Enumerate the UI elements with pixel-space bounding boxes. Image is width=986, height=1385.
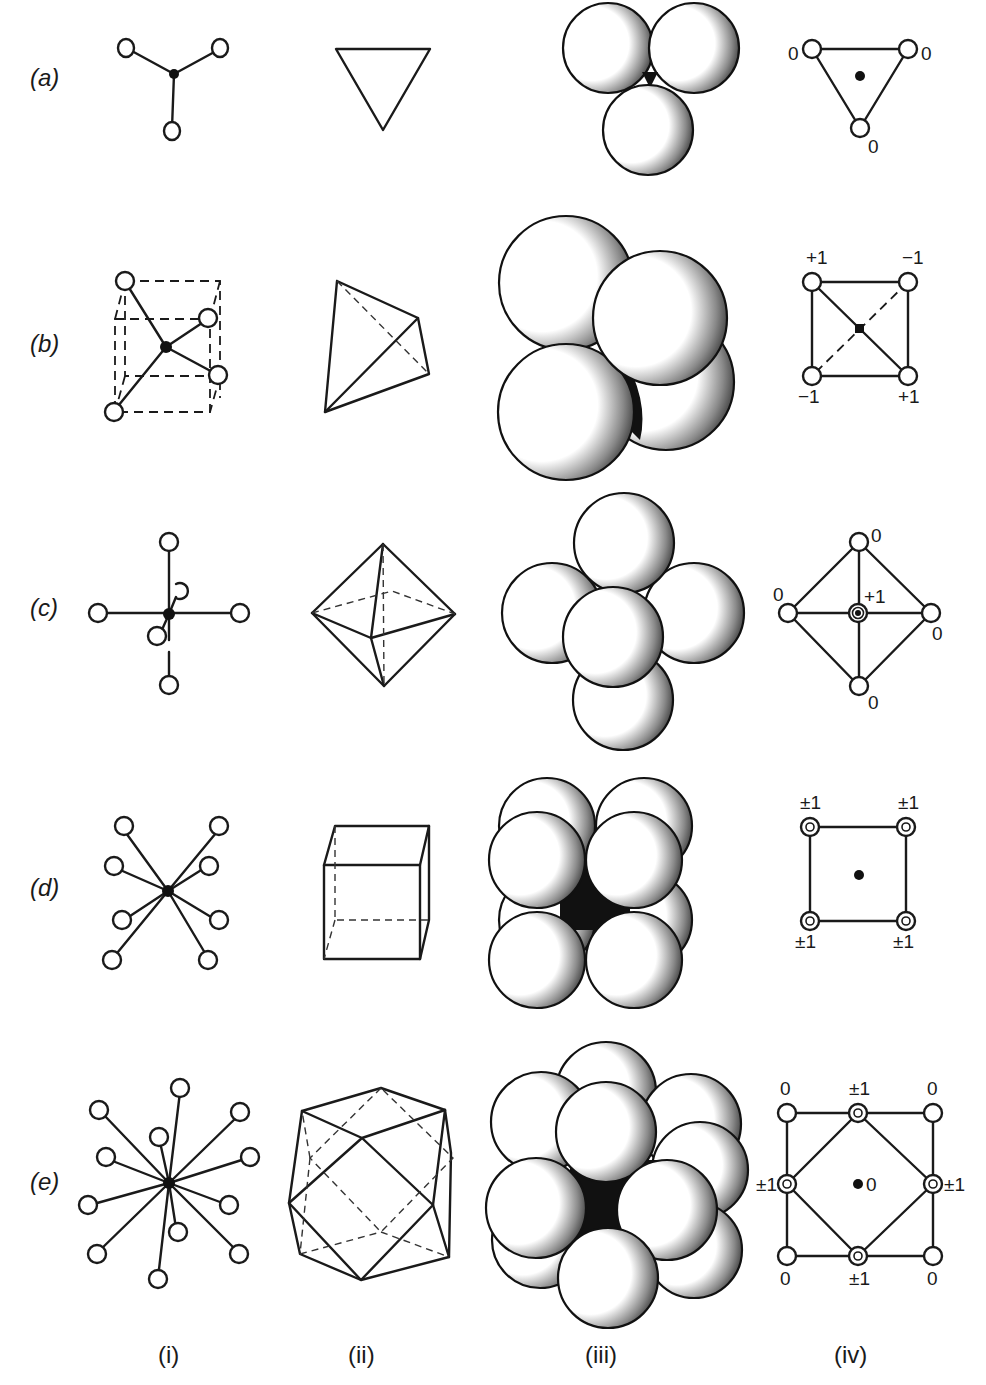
sphere-packing-c <box>502 493 744 750</box>
height-label: ±1 <box>898 792 919 813</box>
row-a: 0 0 0 <box>118 3 932 175</box>
ligand-diagram-a <box>118 39 228 140</box>
column-labels: (i) (ii) (iii) (iv) <box>158 1341 867 1368</box>
height-label: ±1 <box>800 792 821 813</box>
height-label: +1 <box>898 386 920 407</box>
height-label: 0 <box>773 584 784 605</box>
height-label: +1 <box>864 586 886 607</box>
height-label: 0 <box>927 1268 938 1289</box>
column-label-iii: (iii) <box>585 1341 617 1368</box>
height-label: 0 <box>927 1078 938 1099</box>
polyhedron-cuboctahedron <box>289 1088 453 1280</box>
polyhedron-tetrahedron <box>325 281 429 412</box>
row-c: 0 0 0 0 +1 <box>89 493 943 750</box>
sphere-packing-a <box>563 3 739 175</box>
height-label: 0 <box>866 1174 877 1195</box>
row-label-c: (c) <box>30 594 58 621</box>
polyhedron-octahedron <box>312 544 455 686</box>
projection-b: +1 −1 −1 +1 <box>798 247 924 407</box>
row-label-d: (d) <box>30 874 59 901</box>
height-label: ±1 <box>849 1078 870 1099</box>
height-label: ±1 <box>944 1174 965 1195</box>
height-label: ±1 <box>795 931 816 952</box>
polyhedron-cube <box>324 826 429 959</box>
ligand-diagram-b <box>105 272 227 421</box>
coordination-figure: (a) (b) (c) (d) (e) <box>0 0 986 1385</box>
height-label: −1 <box>902 247 924 268</box>
height-label: 0 <box>932 623 943 644</box>
height-label: −1 <box>798 386 820 407</box>
polyhedron-triangle <box>336 49 430 130</box>
column-label-iv: (iv) <box>834 1341 867 1368</box>
height-label: ±1 <box>893 931 914 952</box>
column-label-ii: (ii) <box>348 1341 375 1368</box>
sphere-packing-e <box>486 1042 748 1328</box>
height-label: 0 <box>868 136 879 157</box>
height-label: ±1 <box>849 1268 870 1289</box>
row-label-e: (e) <box>30 1168 59 1195</box>
ligand-diagram-d <box>103 817 228 969</box>
ligand-diagram-c <box>89 533 249 694</box>
projection-a: 0 0 0 <box>788 40 932 157</box>
row-b: +1 −1 −1 +1 <box>105 216 924 480</box>
height-label: ±1 <box>756 1174 777 1195</box>
row-label-b: (b) <box>30 330 59 357</box>
ligand-diagram-e <box>79 1079 259 1288</box>
projection-e: 0 0 0 0 ±1 ±1 ±1 ±1 0 <box>756 1078 965 1289</box>
row-d: ±1 ±1 ±1 ±1 <box>103 778 919 1008</box>
column-label-i: (i) <box>158 1341 179 1368</box>
sphere-packing-d <box>489 778 692 1008</box>
projection-c: 0 0 0 0 +1 <box>773 525 943 713</box>
height-label: 0 <box>921 43 932 64</box>
height-label: 0 <box>780 1268 791 1289</box>
row-labels: (a) (b) (c) (d) (e) <box>30 64 59 1195</box>
height-label: 0 <box>868 692 879 713</box>
sphere-packing-b <box>498 216 734 480</box>
height-label: +1 <box>806 247 828 268</box>
row-label-a: (a) <box>30 64 59 91</box>
row-e: 0 0 0 0 ±1 ±1 ±1 ±1 0 <box>79 1042 965 1328</box>
projection-d: ±1 ±1 ±1 ±1 <box>795 792 919 952</box>
height-label: 0 <box>780 1078 791 1099</box>
height-label: 0 <box>788 43 799 64</box>
height-label: 0 <box>871 525 882 546</box>
